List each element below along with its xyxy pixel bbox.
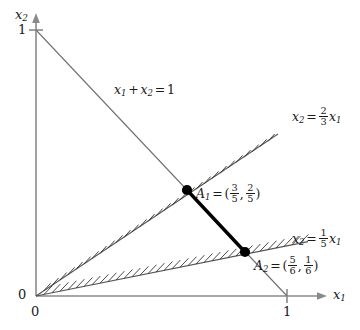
A1-x-fraction: 35 xyxy=(229,183,239,204)
lower-sub2: 1 xyxy=(336,237,341,247)
A2-eq: = xyxy=(268,258,282,273)
upper-var1: x xyxy=(292,109,299,124)
x-tick-label-1: 1 xyxy=(283,305,291,318)
upper-frac-den: 3 xyxy=(319,117,328,127)
x-tick-label-0: 0 xyxy=(31,305,39,318)
budget-line-label: x1+x2=1 xyxy=(114,84,175,97)
budget-eq: = xyxy=(153,82,167,97)
budget-var1: x xyxy=(114,82,121,97)
point-A1-marker xyxy=(182,185,192,195)
A1-y-fraction: 25 xyxy=(245,183,255,204)
A1-x-den: 5 xyxy=(230,194,239,204)
A2-x-fraction: 56 xyxy=(287,255,297,276)
upper-fraction: 23 xyxy=(318,106,328,127)
budget-var2: x xyxy=(140,82,147,97)
point-A2-marker xyxy=(240,247,250,257)
math-figure: x2 x1 1 0 0 1 x1+x2=1 x2=23x1 x2=15x1 A1… xyxy=(0,0,360,330)
lower-fraction: 15 xyxy=(318,228,328,249)
lower-ray-label: x2=15x1 xyxy=(292,228,341,249)
budget-line xyxy=(36,30,287,296)
lower-var1: x xyxy=(292,231,299,246)
budget-op: + xyxy=(126,82,140,97)
upper-sub2: 1 xyxy=(336,115,341,125)
y-axis-label: x2 xyxy=(15,8,28,21)
lower-var2: x xyxy=(329,231,336,246)
A2-name: A xyxy=(254,258,263,273)
plot-canvas xyxy=(0,0,360,330)
A2-x-den: 6 xyxy=(288,266,297,276)
lower-eq: = xyxy=(304,231,318,246)
x-axis-arrowhead xyxy=(317,292,327,300)
y-axis-arrowhead xyxy=(32,13,40,23)
upper-ray-label: x2=23x1 xyxy=(292,106,341,127)
A2-y-fraction: 16 xyxy=(303,255,313,276)
lower-frac-den: 5 xyxy=(319,239,328,249)
x-axis-label-sub: 1 xyxy=(340,293,346,303)
upper-eq: = xyxy=(304,109,318,124)
point-A2-label: A2=(56, 16) xyxy=(254,255,318,276)
x-axis-label: x1 xyxy=(333,288,346,301)
y-tick-label-0: 0 xyxy=(18,288,26,301)
A1-eq: = xyxy=(210,186,224,201)
budget-rhs: 1 xyxy=(167,82,175,97)
A1-name: A xyxy=(196,186,205,201)
upper-var2: x xyxy=(329,109,336,124)
A2-y-den: 6 xyxy=(304,266,313,276)
A1-y-den: 5 xyxy=(246,194,255,204)
y-tick-label-1: 1 xyxy=(18,23,26,36)
point-A1-label: A1=(35, 25) xyxy=(196,183,260,204)
